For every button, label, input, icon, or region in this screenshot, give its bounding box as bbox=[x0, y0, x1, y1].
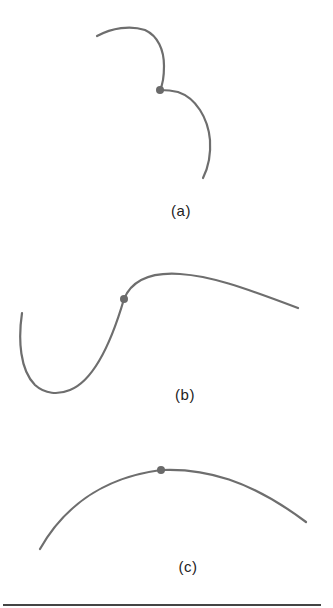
point-b bbox=[120, 295, 128, 303]
panel-label-b: (b) bbox=[175, 386, 195, 403]
curve-c bbox=[40, 470, 306, 549]
bottom-rule bbox=[3, 604, 321, 606]
curve-a-upper bbox=[97, 28, 164, 90]
curve-b bbox=[20, 274, 298, 393]
panel-c bbox=[40, 466, 306, 549]
curve-a-lower bbox=[160, 90, 210, 178]
panel-b bbox=[20, 274, 298, 393]
panel-label-a: (a) bbox=[171, 202, 191, 219]
point-c bbox=[157, 466, 165, 474]
panel-label-c: (c) bbox=[179, 558, 198, 575]
panel-a bbox=[97, 28, 210, 178]
point-a bbox=[156, 86, 164, 94]
figure-canvas bbox=[0, 0, 333, 608]
